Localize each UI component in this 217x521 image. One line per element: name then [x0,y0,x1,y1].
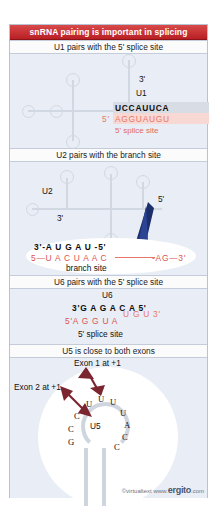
u6-premrna-raised-sequence: U G U 3' [123,309,161,319]
u2-three-prime-label: 3' [57,213,63,223]
u2-premrna-tail: -AG—3' [152,253,186,263]
u1-snrna-sequence: UCCAUUCA [115,103,169,113]
u5-base-1: U [86,399,92,409]
u5-base-8: C [68,424,74,434]
u5-base-2: U [98,394,104,404]
u6-splice-site-label: 5' splice site [78,329,123,339]
u5-base-9: G [68,437,74,447]
section-header-u2: U2 pairs with the branch site [10,148,207,162]
u5-base-6: C [122,432,128,442]
section-body-u1: 3' U1 UCCAUUCA 5' AGGUAUGU 5' splice sit… [10,54,207,148]
u5-base-0: C [74,411,80,421]
u6-snrna-label: U6 [102,290,113,300]
u1-premrna-sequence: AGGUAUGU [115,114,170,124]
u2-snrna-sequence: 3'-A U G A U -5' [34,242,106,252]
section-header-u5: U5 is close to both exons [10,344,207,358]
figure-title: snRNA pairing is important in splicing [10,25,207,40]
footer-copyright: ©virtualtext www. [122,488,168,494]
figure-panel: snRNA pairing is important in splicing U… [9,24,208,498]
u1-premrna-five-prime: 5' [102,114,110,124]
u2-branch-site-label: branch site [66,263,107,273]
u6-premrna-sequence: 5'A G G U A [65,316,118,326]
footer-tld: .com [191,488,204,494]
u5-base-7: C [114,442,120,452]
section-body-u2: U2 3' 5' 3'-A U G A U -5' 5—U A C U A A … [10,162,207,275]
u5-center-label: U5 [90,421,101,431]
footer-brand: ergito [168,485,191,495]
figure-footer: ©virtualtext www.ergito.com [122,485,204,495]
u1-three-prime-label: 3' [139,74,145,84]
u1-snrna-label: U1 [136,88,147,98]
section-body-u5: Exon 1 at +1 Exon 2 at +1 C U U U U A C … [10,358,207,498]
u5-base-4: U [120,408,126,418]
u2-premrna-sequence: 5—U A C U A A C [31,253,107,263]
u1-splice-site-label: 5' splice site [115,126,158,135]
u5-exon2-label: Exon 2 at +1 [14,382,61,392]
section-header-u6: U6 pairs with the 5' splice site [10,275,207,289]
section-body-u6: U6 3'G A G A C A 5' 5'A G G U A U G U 3'… [10,289,207,344]
u2-snrna-label: U2 [42,186,53,196]
u5-base-3: U [110,397,116,407]
u2-intron-dashes [115,257,155,258]
u5-base-5: A [124,420,130,430]
section-header-u1: U1 pairs with the 5' splice site [10,40,207,54]
